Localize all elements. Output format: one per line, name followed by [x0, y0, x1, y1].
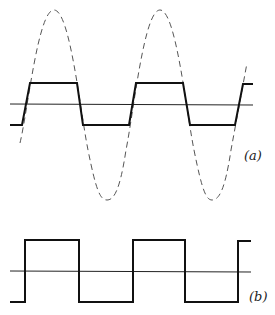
figure-canvas: (a) (b): [0, 0, 275, 315]
panel-a-label: (a): [244, 148, 262, 163]
axis-b: [10, 271, 251, 272]
panel-b: (b): [10, 240, 267, 304]
panel-b-label: (b): [249, 289, 267, 304]
panel-a: (a): [10, 10, 262, 200]
